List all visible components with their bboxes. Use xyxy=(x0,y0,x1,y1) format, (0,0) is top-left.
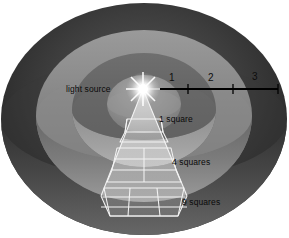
label-light-source: light source xyxy=(66,85,111,94)
label-9-squares: 9 squares xyxy=(182,198,220,207)
figure-canvas: light source 1 square 4 squares 9 square… xyxy=(0,0,289,238)
ruler-tick-label-3: 3 xyxy=(252,72,258,82)
label-1-square: 1 square xyxy=(159,115,193,124)
light-source-burst xyxy=(126,72,160,106)
label-4-squares: 4 squares xyxy=(172,158,210,167)
ruler-tick-label-2: 2 xyxy=(208,73,214,83)
ruler-tick-label-1: 1 xyxy=(169,73,175,83)
inverse-square-law-illustration xyxy=(0,0,289,238)
